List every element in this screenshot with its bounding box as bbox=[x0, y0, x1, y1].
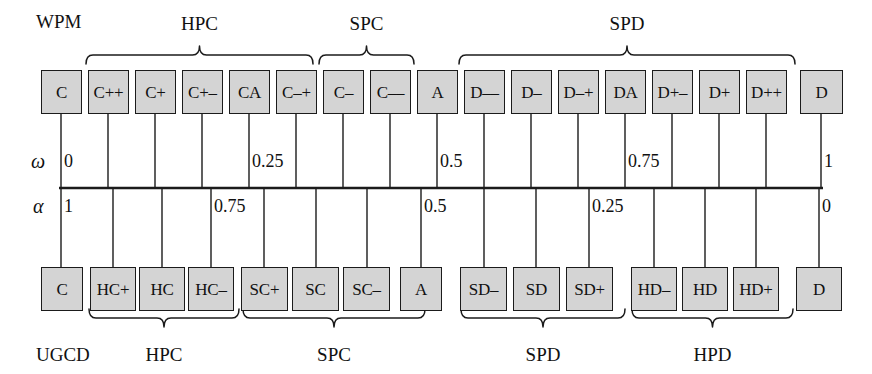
row-label-omega: ω bbox=[31, 151, 45, 171]
wpm-group-label: SPC bbox=[327, 14, 407, 33]
ugcd-box-label: HC+ bbox=[97, 281, 130, 298]
ugcd-box-label: SC bbox=[305, 281, 325, 298]
omega-value-label: 0 bbox=[64, 152, 73, 170]
omega-value-label: 0.25 bbox=[252, 152, 284, 170]
wpm-box-label: C–+ bbox=[282, 84, 311, 101]
wpm-box-label: C bbox=[56, 84, 67, 101]
ugcd-box[interactable]: SD bbox=[513, 267, 560, 311]
wpm-box[interactable]: A bbox=[417, 70, 458, 114]
top-brace-2 bbox=[459, 46, 795, 64]
wpm-box-label: C– bbox=[334, 84, 353, 101]
ugcd-box[interactable]: HC– bbox=[188, 267, 234, 311]
wpm-box[interactable]: D bbox=[800, 70, 843, 114]
wpm-box[interactable]: D+ bbox=[699, 70, 740, 114]
wpm-box[interactable]: C bbox=[41, 70, 82, 114]
row-label-wpm: WPM bbox=[36, 12, 81, 31]
ugcd-box-label: SD bbox=[526, 281, 547, 298]
bottom-brace-2 bbox=[461, 309, 625, 327]
wpm-box-label: C++ bbox=[94, 84, 124, 101]
ugcd-group-label: HPD bbox=[673, 345, 753, 364]
wpm-ugcd-scale-diagram: WPM UGCD ω α CC++C+C+–CAC–+C–C––AD––D–D–… bbox=[0, 0, 872, 374]
ugcd-box[interactable]: HC bbox=[139, 267, 185, 311]
diagram-vector-layer bbox=[0, 0, 872, 374]
wpm-box-label: C–– bbox=[377, 84, 405, 101]
wpm-box[interactable]: C+ bbox=[135, 70, 176, 114]
omega-value-label: 0.5 bbox=[440, 152, 463, 170]
wpm-box-label: D bbox=[815, 84, 827, 101]
wpm-box[interactable]: D–+ bbox=[558, 70, 599, 114]
ugcd-group-label: SPC bbox=[294, 345, 374, 364]
wpm-box-label: D– bbox=[521, 84, 541, 101]
ugcd-box-label: HC bbox=[150, 281, 173, 298]
bottom-brace-0 bbox=[89, 309, 239, 327]
alpha-value-label: 0.25 bbox=[592, 197, 624, 215]
wpm-box-label: D+– bbox=[658, 84, 688, 101]
omega-value-label: 1 bbox=[824, 152, 833, 170]
ugcd-box[interactable]: SD+ bbox=[566, 267, 613, 311]
omega-value-label: 0.75 bbox=[628, 152, 660, 170]
row-label-alpha: α bbox=[33, 196, 44, 216]
wpm-box-label: D+ bbox=[709, 84, 730, 101]
ugcd-box[interactable]: HD– bbox=[631, 267, 677, 311]
ugcd-box-label: A bbox=[415, 281, 427, 298]
ugcd-box[interactable]: HD+ bbox=[733, 267, 779, 311]
ugcd-box-label: C bbox=[56, 281, 67, 298]
ugcd-box[interactable]: C bbox=[41, 267, 83, 311]
ugcd-box-label: HD+ bbox=[739, 281, 773, 298]
ugcd-box[interactable]: SC+ bbox=[241, 267, 288, 311]
ugcd-box-label: SC+ bbox=[250, 281, 280, 298]
ugcd-box[interactable]: SC bbox=[292, 267, 339, 311]
ugcd-group-label: HPC bbox=[124, 345, 204, 364]
bottom-brace-3 bbox=[632, 309, 793, 327]
ugcd-box[interactable]: A bbox=[400, 267, 442, 311]
wpm-group-label: HPC bbox=[160, 14, 240, 33]
wpm-box-label: DA bbox=[613, 84, 637, 101]
wpm-box-label: A bbox=[431, 84, 443, 101]
ugcd-box-label: HD bbox=[693, 281, 717, 298]
wpm-box[interactable]: DA bbox=[605, 70, 646, 114]
wpm-box[interactable]: D–– bbox=[464, 70, 505, 114]
alpha-value-label: 0.75 bbox=[214, 197, 246, 215]
alpha-value-label: 0 bbox=[822, 197, 831, 215]
ugcd-box[interactable]: HD bbox=[682, 267, 728, 311]
wpm-box[interactable]: C–+ bbox=[276, 70, 317, 114]
ugcd-box[interactable]: HC+ bbox=[90, 267, 136, 311]
ugcd-box-label: HD– bbox=[638, 281, 670, 298]
top-brace-1 bbox=[319, 46, 414, 64]
ugcd-box-label: SD– bbox=[469, 281, 499, 298]
wpm-box-label: D++ bbox=[751, 84, 782, 101]
wpm-box[interactable]: CA bbox=[229, 70, 270, 114]
bottom-brace-1 bbox=[243, 309, 425, 327]
ugcd-box-label: SD+ bbox=[574, 281, 605, 298]
ugcd-box-label: SC– bbox=[352, 281, 381, 298]
alpha-value-label: 0.5 bbox=[424, 197, 447, 215]
ugcd-group-label: SPD bbox=[503, 345, 583, 364]
wpm-box[interactable]: D– bbox=[511, 70, 552, 114]
wpm-box-label: D–– bbox=[470, 84, 499, 101]
wpm-box[interactable]: C– bbox=[323, 70, 364, 114]
wpm-box-label: CA bbox=[238, 84, 261, 101]
wpm-box[interactable]: C+– bbox=[182, 70, 223, 114]
wpm-group-label: SPD bbox=[587, 14, 667, 33]
wpm-box-label: C+– bbox=[188, 84, 217, 101]
ugcd-box-label: D bbox=[813, 281, 825, 298]
ugcd-box[interactable]: D bbox=[796, 267, 842, 311]
alpha-value-label: 1 bbox=[64, 197, 73, 215]
wpm-box[interactable]: C++ bbox=[88, 70, 129, 114]
wpm-box[interactable]: D+– bbox=[652, 70, 693, 114]
wpm-box[interactable]: D++ bbox=[746, 70, 787, 114]
wpm-box-label: D–+ bbox=[564, 84, 594, 101]
ugcd-box-label: HC– bbox=[195, 281, 227, 298]
top-brace-0 bbox=[86, 46, 313, 64]
ugcd-box[interactable]: SC– bbox=[343, 267, 390, 311]
wpm-box[interactable]: C–– bbox=[370, 70, 411, 114]
wpm-box-label: C+ bbox=[145, 84, 166, 101]
row-label-ugcd: UGCD bbox=[36, 345, 90, 364]
ugcd-box[interactable]: SD– bbox=[460, 267, 507, 311]
